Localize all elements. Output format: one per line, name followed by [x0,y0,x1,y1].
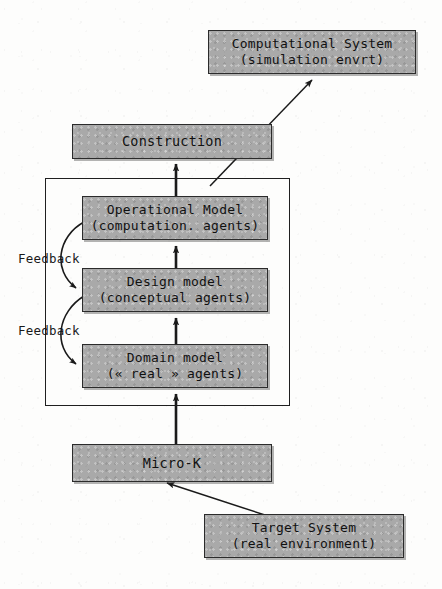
node-computational-system-line2: (simulation envrt) [240,52,384,68]
feedback-label-upper: Feedback [18,251,80,266]
feedback-label-lower: Feedback [18,323,80,338]
node-design-model[interactable]: Design model (conceptual agents) [82,268,268,312]
node-construction[interactable]: Construction [72,124,272,159]
node-computational-system-line1: Computational System [232,36,393,52]
node-domain-model-line2: (« real » agents) [107,366,243,382]
node-operational-model-line1: Operational Model [107,202,243,218]
node-operational-model-line2: (computation. agents) [91,218,260,234]
node-construction-line1: Construction [122,133,222,149]
node-design-model-line2: (conceptual agents) [99,290,252,306]
node-target-system-line1: Target System [252,520,356,536]
node-operational-model[interactable]: Operational Model (computation. agents) [82,196,268,240]
node-target-system-line2: (real environment) [232,536,376,552]
arrow-target-system-to-micro-k [167,483,268,516]
node-design-model-line1: Design model [127,274,223,290]
node-target-system[interactable]: Target System (real environment) [204,514,404,558]
node-micro-k[interactable]: Micro-K [72,444,272,482]
diagram-canvas: Computational System (simulation envrt) … [0,0,442,589]
node-computational-system[interactable]: Computational System (simulation envrt) [208,30,416,74]
node-domain-model[interactable]: Domain model (« real » agents) [82,344,268,388]
node-micro-k-line1: Micro-K [143,455,201,471]
node-domain-model-line1: Domain model [127,350,223,366]
